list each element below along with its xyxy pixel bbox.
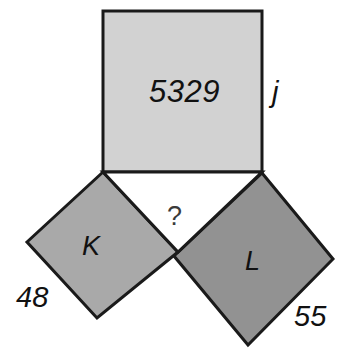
- square-k-letter-label: K: [82, 233, 100, 260]
- unknown-question-mark-label: ?: [167, 203, 182, 230]
- side-j-label: j: [272, 78, 278, 107]
- side-48-label: 48: [16, 283, 48, 312]
- geometry-figure: 5329 j K L 48 55 ?: [0, 0, 364, 360]
- side-55-label: 55: [294, 302, 326, 331]
- square-j-area-label: 5329: [149, 76, 220, 107]
- square-l-letter-label: L: [245, 248, 260, 275]
